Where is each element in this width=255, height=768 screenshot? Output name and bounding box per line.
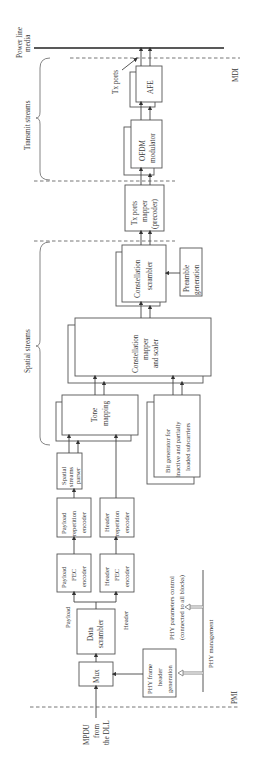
datascr-block bbox=[77, 609, 115, 654]
ssparser-text-3: parser bbox=[74, 467, 81, 484]
phy-transmitter-diagram: Power line media MDI Transmit streams AF… bbox=[0, 0, 255, 768]
transmit-streams-brace bbox=[36, 58, 50, 180]
payfec-text-2: FEC bbox=[70, 568, 77, 581]
phy-params-label-1: PHY parameters control bbox=[168, 576, 175, 640]
ofdm-text-2: modulator bbox=[149, 133, 157, 163]
phyframe-text-2: header bbox=[156, 668, 163, 686]
afe-text: AFE bbox=[147, 80, 155, 94]
phy-params-label-2: (connected to all blocks) bbox=[178, 575, 186, 640]
hdrrep-text-2: repetition bbox=[113, 510, 120, 536]
preamble-text-1: Preamble bbox=[183, 265, 191, 292]
datascr-text-1: Data bbox=[87, 627, 95, 641]
phy-management-label: PHY management bbox=[207, 620, 214, 668]
mux-text: Mux bbox=[93, 669, 101, 683]
constscr-text-2: scrambler bbox=[146, 261, 154, 290]
payrep-text-1: Payload bbox=[60, 512, 67, 534]
tone-block bbox=[62, 395, 138, 435]
mpdu-label-2: from bbox=[93, 724, 101, 738]
mdi-label: MDI bbox=[232, 67, 240, 82]
payfec-text-3: encoder bbox=[80, 565, 87, 587]
constmap-text-3: and scaler bbox=[152, 338, 160, 368]
ofdm-text-1: OFDM bbox=[139, 140, 147, 161]
bitgen-text-1: Bit generator for bbox=[164, 428, 171, 473]
payfec-text-1: Payload bbox=[60, 566, 67, 588]
bitgen-text-3: loaded subcarriers bbox=[184, 422, 191, 471]
spatial-streams-brace bbox=[36, 242, 50, 445]
transmit-streams-label: Transmit streams bbox=[24, 100, 32, 150]
payrep-text-3: encoder bbox=[80, 511, 87, 533]
hdrfec-text-3: encoder bbox=[123, 565, 130, 587]
phy-frame-arrowhead bbox=[178, 670, 183, 676]
hdrfec-text-1: Header bbox=[103, 566, 110, 586]
hdrrep-text-1: Header bbox=[103, 512, 110, 532]
tone-text-1: Tone bbox=[91, 408, 99, 422]
power-line-label-1: Power line bbox=[16, 27, 24, 58]
txmapper-text-1: Tx ports bbox=[131, 201, 139, 225]
tone-text-2: mapping bbox=[102, 400, 110, 426]
ssparser-text-1: Spatial bbox=[60, 467, 67, 485]
mpdu-label-3: the DLL bbox=[103, 720, 111, 745]
payrep-text-2: repetition bbox=[70, 510, 77, 536]
header-label: Header bbox=[122, 610, 129, 630]
phyframe-text-3: generation bbox=[166, 664, 173, 693]
spatial-streams-label: Spatial streams bbox=[24, 329, 32, 373]
constmap-text-2: mapper bbox=[142, 338, 150, 360]
datascr-text-2: scrambler bbox=[97, 619, 105, 648]
constmap-text-1: Constellation bbox=[132, 334, 140, 373]
power-line-label-2: media bbox=[24, 34, 32, 52]
hdrrep-text-3: encoder bbox=[123, 511, 130, 533]
ssparser-text-2: streams bbox=[67, 466, 74, 487]
hdrfec-text-2: FEC bbox=[113, 568, 120, 581]
preamble-text-2: generation bbox=[193, 264, 201, 295]
constscr-text-1: Constellation bbox=[134, 259, 142, 298]
payload-label: Payload bbox=[64, 606, 71, 628]
tx-ports-pointer bbox=[122, 59, 136, 70]
phy-params-arrowhead bbox=[185, 604, 190, 610]
constscr-block bbox=[122, 245, 166, 302]
mpdu-label-1: MPDU bbox=[83, 723, 91, 745]
txmapper-text-3: (precoder) bbox=[151, 198, 159, 229]
bitgen-text-2: inactive and partially bbox=[174, 421, 181, 477]
phyframe-text-1: PHY frame bbox=[146, 664, 153, 694]
txmapper-text-2: mapper bbox=[141, 200, 149, 222]
tx-ports-label: Tx ports bbox=[112, 70, 120, 94]
pmi-label: PMI bbox=[231, 691, 239, 704]
